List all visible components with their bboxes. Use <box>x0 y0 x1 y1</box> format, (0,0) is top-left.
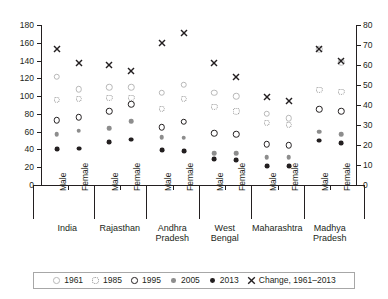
left-axis-tick <box>37 185 41 186</box>
data-point-1985 <box>338 88 345 95</box>
legend-item: 1995 <box>126 276 165 285</box>
data-point-1995 <box>233 131 240 138</box>
data-point-2005 <box>129 119 134 124</box>
legend-label: 2013 <box>220 276 239 285</box>
data-point-1995 <box>338 108 345 115</box>
data-point-1995 <box>106 108 113 115</box>
data-point-change-1961-2013 <box>285 97 293 105</box>
right-axis-tick-label: 20 <box>363 141 372 150</box>
right-axis-tick-label: 40 <box>363 101 372 110</box>
legend-item: Change, 1961–2013 <box>243 276 340 285</box>
data-point-1995 <box>211 130 218 137</box>
legend-marker-2013-icon <box>210 278 215 283</box>
data-point-1961 <box>264 111 271 118</box>
legend-marker-2005-icon <box>171 278 176 283</box>
data-point-2013 <box>76 146 81 151</box>
data-point-1995 <box>159 124 166 131</box>
data-point-2013 <box>339 141 344 146</box>
right-axis-tick-label: 70 <box>363 41 372 50</box>
data-point-2005 <box>339 132 344 137</box>
data-point-1961 <box>54 73 61 80</box>
data-point-1985 <box>211 104 218 111</box>
right-axis-tick <box>357 125 361 126</box>
x-axis-sex-label-male: Male <box>216 173 225 191</box>
data-point-2013 <box>181 149 186 154</box>
data-point-1961 <box>159 89 166 96</box>
chart-legend: 19611985199520052013Change, 1961–2013 <box>33 272 355 289</box>
data-point-1985 <box>54 96 61 103</box>
data-point-2005 <box>107 126 112 131</box>
right-axis-tick <box>357 65 361 66</box>
x-axis-minor-tick <box>120 185 121 190</box>
x-axis-region-label: Madhya Pradesh <box>301 223 360 243</box>
data-point-1995 <box>316 106 323 113</box>
x-axis-sex-label-female: Female <box>133 163 142 191</box>
legend-label: 2005 <box>181 276 200 285</box>
data-point-2013 <box>107 140 112 145</box>
legend-label: 1985 <box>103 276 122 285</box>
x-axis-region-label: Andhra Pradesh <box>143 223 202 243</box>
x-axis-sex-label-female: Female <box>343 163 352 191</box>
x-axis-sex-label-female: Female <box>81 163 90 191</box>
data-point-1985 <box>181 96 188 103</box>
data-point-1961 <box>181 81 188 88</box>
data-point-change-1961-2013 <box>263 93 271 101</box>
data-point-1961 <box>76 86 83 93</box>
legend-swatch <box>52 276 61 285</box>
data-point-1985 <box>316 87 323 94</box>
legend-item: 2005 <box>165 276 204 285</box>
x-axis-region-label: India <box>38 223 97 233</box>
data-point-2013 <box>159 148 164 153</box>
data-point-change-1961-2013 <box>105 61 113 69</box>
data-point-1961 <box>233 93 240 100</box>
plot-area <box>41 25 356 185</box>
legend-swatch <box>208 276 217 285</box>
left-axis-tick-label: 160 <box>20 39 34 48</box>
x-axis-sex-label-male: Male <box>111 173 120 191</box>
legend-label: Change, 1961–2013 <box>259 276 336 285</box>
left-axis-tick-label: 40 <box>25 145 34 154</box>
x-axis-region-label: Rajasthan <box>91 223 150 233</box>
data-point-change-1961-2013 <box>75 59 83 67</box>
data-point-2005 <box>234 151 239 156</box>
data-point-2005 <box>212 151 217 156</box>
legend-swatch <box>130 276 139 285</box>
x-axis-minor-tick <box>330 185 331 190</box>
data-point-2013 <box>54 147 59 152</box>
right-axis-tick-label: 10 <box>363 161 372 170</box>
data-point-1985 <box>106 95 113 102</box>
x-axis-group-separator <box>304 185 305 219</box>
data-point-change-1961-2013 <box>158 39 166 47</box>
x-axis-sex-label-male: Male <box>269 173 278 191</box>
x-axis-sex-label-male: Male <box>321 173 330 191</box>
legend-label: 1961 <box>64 276 83 285</box>
left-axis-tick-label: 80 <box>25 110 34 119</box>
chart-root: 020406080100120140160180 010203040506070… <box>0 0 388 299</box>
data-point-1995 <box>264 141 271 148</box>
left-axis-tick-label: 120 <box>20 74 34 83</box>
right-axis-tick <box>357 145 361 146</box>
left-axis-tick-label: 100 <box>20 92 34 101</box>
right-axis-tick <box>357 105 361 106</box>
right-axis-tick <box>357 185 361 186</box>
legend-item: 1961 <box>48 276 87 285</box>
data-point-1995 <box>76 114 83 121</box>
x-axis-sex-label-female: Female <box>238 163 247 191</box>
data-point-1985 <box>233 108 240 115</box>
data-point-change-1961-2013 <box>180 29 188 37</box>
data-point-2013 <box>212 157 217 162</box>
x-axis-sex-label-female: Female <box>291 163 300 191</box>
data-point-2005 <box>287 155 292 160</box>
data-point-2013 <box>264 164 269 169</box>
data-point-2005 <box>264 155 269 160</box>
data-point-change-1961-2013 <box>127 67 135 75</box>
data-point-change-1961-2013 <box>315 45 323 53</box>
x-axis-sex-label-female: Female <box>186 163 195 191</box>
x-axis-group-separator <box>364 185 365 219</box>
left-axis-tick-label: 180 <box>20 21 34 30</box>
data-point-1995 <box>286 142 293 149</box>
data-point-1985 <box>76 96 83 103</box>
data-point-change-1961-2013 <box>232 73 240 81</box>
data-point-1961 <box>106 84 113 91</box>
legend-swatch <box>91 276 100 285</box>
